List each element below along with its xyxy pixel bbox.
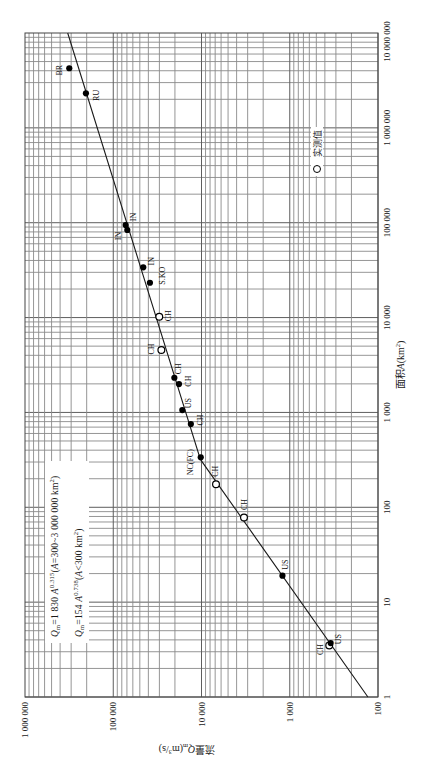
open-circle-icon <box>313 165 321 173</box>
eq-base: A <box>74 596 84 602</box>
x-axis-title-unit-sup: 2 <box>394 344 401 347</box>
x-tick-label: 10 <box>382 597 392 607</box>
filled-circle-marker <box>188 421 194 427</box>
eq-cond-sup: 2 <box>48 479 55 482</box>
eq-exponent: 0.738 <box>72 580 79 596</box>
y-tick-label: 1 000 000 <box>20 702 30 739</box>
filled-circle-marker <box>171 375 177 381</box>
data-points: BRRUINININS.KOCHCHCHCHUSCHNC(FC)CHCHUSUS… <box>55 64 343 655</box>
point-label: CH <box>164 310 173 321</box>
y-axis-title-var: Q <box>188 744 195 755</box>
open-circle-marker <box>241 514 248 521</box>
point-label: CH <box>147 343 156 354</box>
point-label: IN <box>129 213 138 222</box>
eq-cond-var: A <box>50 563 60 569</box>
y-axis-title-unit: (m <box>172 744 183 755</box>
open-circle-marker <box>156 313 163 320</box>
eq-cond: =300~3 000 000 km <box>50 482 60 563</box>
filled-circle-marker <box>279 573 285 579</box>
legend-label: 实测值 <box>311 130 324 157</box>
eq-cond: <300 km <box>74 535 84 571</box>
eq-var: Q <box>74 630 84 637</box>
x-tick-label: 1 000 <box>382 402 392 423</box>
y-axis-title-unit-sup: 3 <box>169 749 172 756</box>
eq-cond-open: ( <box>50 569 60 572</box>
point-label: US <box>184 398 193 408</box>
open-circle-marker <box>158 347 165 354</box>
y-tick-label: 100 000 <box>108 702 118 732</box>
point-label: CH <box>184 375 193 386</box>
x-tick-label: 100 <box>382 500 392 514</box>
eq-base: A <box>50 588 60 594</box>
filled-circle-marker <box>83 90 89 96</box>
eq-sub: m <box>78 625 85 630</box>
x-axis-title-text: 面积 <box>395 369 406 389</box>
eq-var: Q <box>50 630 60 637</box>
eq-cond-sup: 2 <box>72 532 79 535</box>
y-tick-label: 10 000 <box>197 702 207 727</box>
point-label: CH <box>240 499 249 510</box>
point-label: CH <box>174 363 183 374</box>
y-axis-title: 流量Qm(m3/s) <box>159 743 216 758</box>
y-axis-title-text: 流量 <box>195 744 215 755</box>
y-tick-label: 1 000 <box>285 702 295 723</box>
point-label: S.KO <box>158 267 167 285</box>
x-axis-title-unit: (km <box>395 347 406 363</box>
eq-cond-close: ) <box>50 476 60 479</box>
eq-coef: =154 <box>74 602 84 625</box>
plot-area: 1101001 00010 000100 0001 000 00010 000 … <box>0 0 423 781</box>
x-axis-title: 面积A(km2) <box>392 341 407 390</box>
eq-sub: m <box>54 625 61 630</box>
point-label: US <box>334 634 343 644</box>
point-label: CH <box>211 465 220 476</box>
filled-circle-marker <box>198 454 204 460</box>
equation-upper-range: Qm=1 830 A0.315(A=300~3 000 000 km2) <box>49 476 61 637</box>
x-tick-label: 1 <box>382 695 392 700</box>
x-tick-label: 100 000 <box>382 208 392 238</box>
point-label: NC(FC) <box>186 449 195 476</box>
point-label: IN <box>147 257 156 266</box>
y-axis-title-unit-end: /s) <box>159 744 169 755</box>
filled-circle-marker <box>140 264 146 270</box>
y-tick-label: 100 <box>373 702 383 716</box>
filled-circle-marker <box>124 227 130 233</box>
x-tick-label: 10 000 <box>382 305 392 330</box>
point-label: CH <box>196 414 205 425</box>
equation-box: Qm=1 830 A0.315(A=300~3 000 000 km2) Qm=… <box>45 461 89 643</box>
x-axis-title-unit-end: ) <box>395 341 406 344</box>
filled-circle-marker <box>147 280 153 286</box>
filled-circle-marker <box>328 640 334 646</box>
eq-cond-close: ) <box>74 528 84 531</box>
x-tick-label: 1 000 000 <box>382 109 392 146</box>
y-axis-title-sub: m <box>183 743 188 750</box>
eq-cond-var: A <box>74 571 84 577</box>
point-label: BR <box>55 64 64 75</box>
eq-cond-open: ( <box>74 577 84 580</box>
point-label: RU <box>92 90 101 101</box>
point-label: IN <box>114 232 123 241</box>
point-label: CH <box>316 644 325 655</box>
open-circle-marker <box>213 481 220 488</box>
filled-circle-marker <box>176 381 182 387</box>
chart-figure: 1101001 00010 000100 0001 000 00010 000 … <box>0 0 423 781</box>
x-axis-title-var: A <box>395 363 406 369</box>
equation-lower-range: Qm=154 A0.738(A<300 km2) <box>73 528 85 637</box>
x-tick-label: 10 000 000 <box>382 21 392 62</box>
eq-coef: =1 830 <box>50 594 60 625</box>
filled-circle-marker <box>66 65 72 71</box>
legend: 实测值 <box>311 127 323 176</box>
point-label: US <box>281 560 290 570</box>
eq-exponent: 0.315 <box>48 573 55 589</box>
